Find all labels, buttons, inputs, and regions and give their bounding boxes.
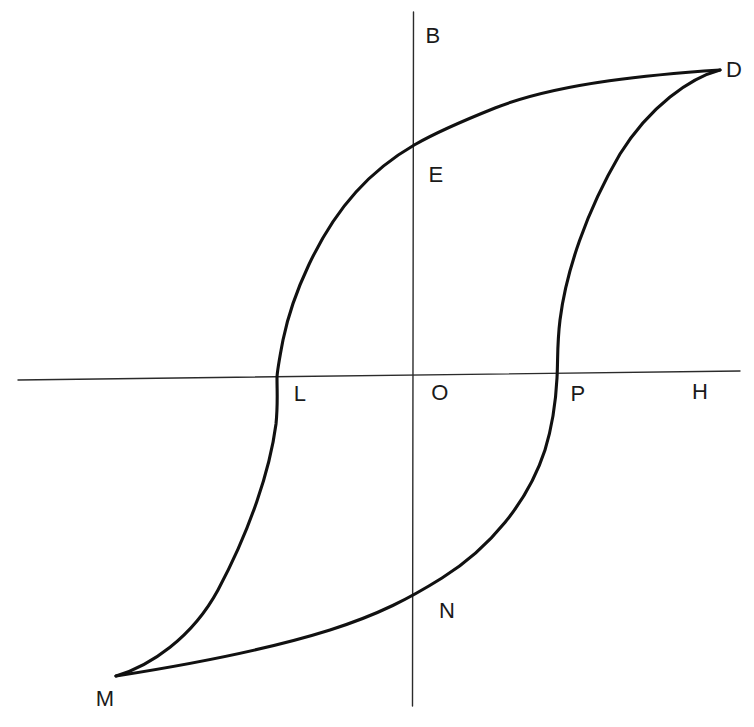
label-point-n: N [439, 600, 455, 622]
label-point-p: P [571, 383, 586, 405]
label-point-d: D [726, 59, 742, 81]
label-origin-o: O [431, 382, 448, 404]
hysteresis-plot [0, 0, 754, 727]
label-point-m: M [96, 688, 115, 710]
label-point-l: L [294, 383, 306, 405]
label-h-axis: H [692, 381, 708, 403]
horizontal-axis-h [18, 371, 740, 380]
label-b-axis: B [426, 25, 441, 47]
hysteresis-figure: B D E L O P H N M [0, 0, 754, 727]
vertical-axis-b [413, 12, 414, 706]
label-point-e: E [429, 164, 444, 186]
